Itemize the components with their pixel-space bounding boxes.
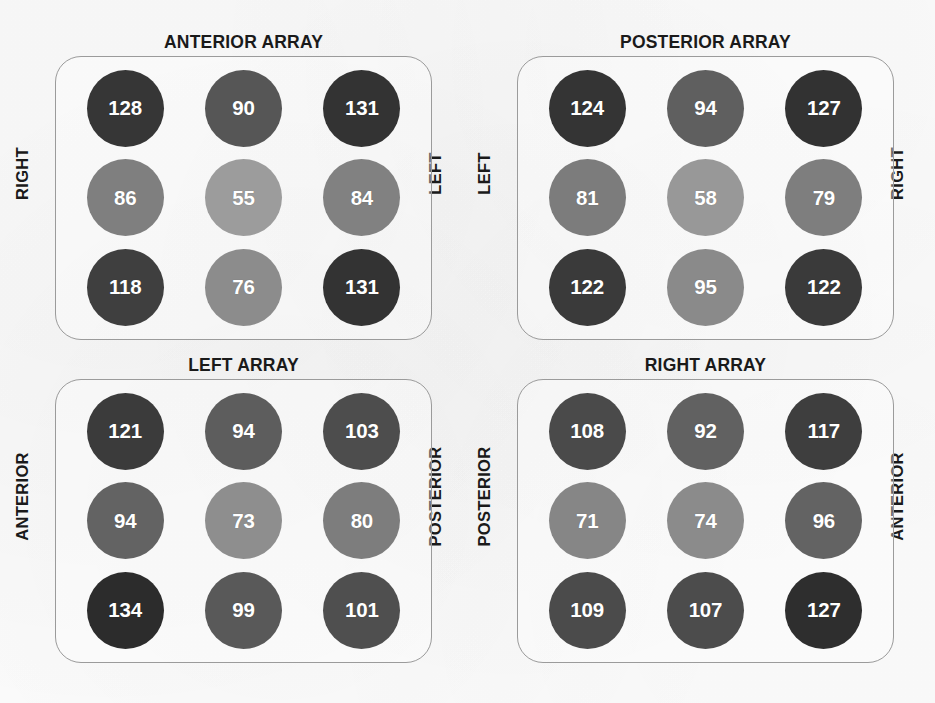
array-node[interactable]: 80 [323,482,400,559]
array-title-right: RIGHT ARRAY [472,355,935,376]
array-node[interactable]: 131 [323,249,400,326]
array-node[interactable]: 86 [87,159,164,236]
array-border-posterior: 124 94 127 81 58 79 122 95 122 [517,56,894,340]
array-node[interactable]: 127 [785,70,862,147]
array-node[interactable]: 107 [667,572,744,649]
array-node[interactable]: 74 [667,482,744,559]
array-title-anterior: ANTERIOR ARRAY [10,32,477,53]
array-node[interactable]: 94 [667,70,744,147]
array-node[interactable]: 94 [87,482,164,559]
array-grid-anterior: 128 90 131 86 55 84 118 76 131 [56,57,431,339]
array-node[interactable]: 127 [785,572,862,649]
array-node[interactable]: 55 [205,159,282,236]
array-node[interactable]: 134 [87,572,164,649]
array-node[interactable]: 95 [667,249,744,326]
array-node[interactable]: 128 [87,70,164,147]
array-node[interactable]: 124 [549,70,626,147]
array-node[interactable]: 96 [785,482,862,559]
array-panel-posterior: POSTERIOR ARRAY LEFT RIGHT 124 94 127 81… [472,32,935,350]
side-label-left-anterior: RIGHT [13,114,32,234]
side-label-left-left: ANTERIOR [13,437,32,557]
array-node[interactable]: 58 [667,159,744,236]
array-node[interactable]: 90 [205,70,282,147]
side-label-left-posterior: LEFT [475,114,494,234]
array-panel-anterior: ANTERIOR ARRAY RIGHT LEFT 128 90 131 86 … [10,32,477,350]
array-node[interactable]: 118 [87,249,164,326]
array-panel-left: LEFT ARRAY ANTERIOR POSTERIOR 121 94 103… [10,355,477,681]
array-figure: ANTERIOR ARRAY RIGHT LEFT 128 90 131 86 … [0,0,935,703]
array-node[interactable]: 103 [323,393,400,470]
array-node[interactable]: 131 [323,70,400,147]
array-panel-right: RIGHT ARRAY POSTERIOR ANTERIOR 108 92 11… [472,355,935,681]
array-node[interactable]: 76 [205,249,282,326]
array-node[interactable]: 121 [87,393,164,470]
array-grid-posterior: 124 94 127 81 58 79 122 95 122 [518,57,893,339]
array-node[interactable]: 92 [667,393,744,470]
array-grid-right: 108 92 117 71 74 96 109 107 127 [518,380,893,662]
array-node[interactable]: 84 [323,159,400,236]
array-node[interactable]: 109 [549,572,626,649]
array-node[interactable]: 81 [549,159,626,236]
array-node[interactable]: 122 [549,249,626,326]
array-node[interactable]: 99 [205,572,282,649]
array-border-left: 121 94 103 94 73 80 134 99 101 [55,379,432,663]
array-node[interactable]: 94 [205,393,282,470]
array-grid-left: 121 94 103 94 73 80 134 99 101 [56,380,431,662]
side-label-left-right: POSTERIOR [475,437,494,557]
array-node[interactable]: 101 [323,572,400,649]
array-node[interactable]: 117 [785,393,862,470]
array-border-anterior: 128 90 131 86 55 84 118 76 131 [55,56,432,340]
array-title-left: LEFT ARRAY [10,355,477,376]
array-title-posterior: POSTERIOR ARRAY [472,32,935,53]
array-node[interactable]: 71 [549,482,626,559]
array-node[interactable]: 73 [205,482,282,559]
array-node[interactable]: 122 [785,249,862,326]
array-node[interactable]: 108 [549,393,626,470]
array-border-right: 108 92 117 71 74 96 109 107 127 [517,379,894,663]
array-node[interactable]: 79 [785,159,862,236]
